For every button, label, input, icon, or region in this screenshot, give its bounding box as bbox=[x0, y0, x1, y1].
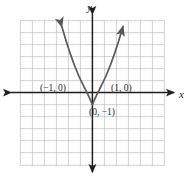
left-intercept-label: (−1, 0) bbox=[40, 84, 66, 94]
y-axis-label: y bbox=[87, 2, 92, 13]
vertex-label: (0, −1) bbox=[89, 108, 115, 118]
right-intercept-label: (1, 0) bbox=[111, 84, 132, 94]
x-axis-label: x bbox=[179, 89, 184, 100]
coordinate-plane-svg bbox=[0, 0, 191, 178]
graph-figure: y x (−1, 0) (1, 0) (0, −1) bbox=[0, 0, 191, 178]
